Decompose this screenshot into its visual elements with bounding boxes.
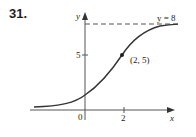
- logistic-curve: [34, 24, 178, 107]
- logistic-graph: y 5 0 2 x y = 8 (2, 5): [0, 0, 196, 137]
- point-marker: [120, 53, 124, 57]
- y-tick-label-5: 5: [76, 50, 81, 60]
- point-label: (2, 5): [130, 55, 150, 65]
- y-axis-label: y: [75, 11, 80, 21]
- asymptote-label: y = 8: [157, 13, 176, 23]
- x-tick-label-2: 2: [121, 113, 126, 123]
- origin-label: 0: [78, 112, 83, 122]
- y-axis-arrow-icon: [82, 12, 88, 20]
- x-axis-label: x: [169, 113, 174, 123]
